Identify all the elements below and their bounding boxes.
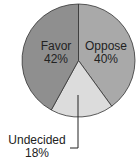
favor-label: Favor 42% <box>36 40 76 66</box>
oppose-label: Oppose 40% <box>82 40 130 66</box>
undecided-label: Undecided 18% <box>4 134 70 160</box>
